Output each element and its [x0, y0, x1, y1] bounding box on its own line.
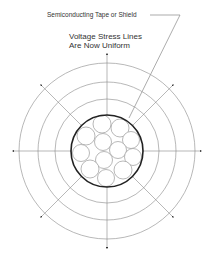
callout-leader-line [129, 15, 180, 118]
cable-cross-section-diagram [0, 0, 213, 261]
